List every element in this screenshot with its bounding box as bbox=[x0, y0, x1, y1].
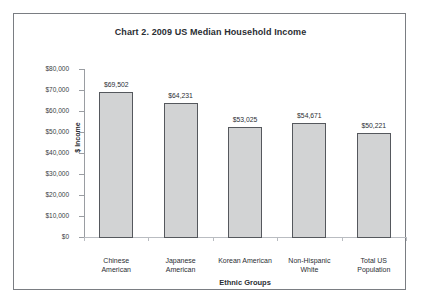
y-tick-label: $80,000 bbox=[9, 66, 69, 73]
bar-category[interactable]: $64,231JapaneseAmerican bbox=[148, 69, 212, 238]
plot-area: $ Income Ethnic Groups $80,000$70,000$60… bbox=[71, 56, 407, 238]
bar-category[interactable]: $54,671Non-HispanicWhite bbox=[277, 69, 341, 238]
bar-value-label: $69,502 bbox=[104, 81, 129, 88]
y-tick-label: $30,000 bbox=[9, 171, 69, 178]
chart-frame: Chart 2. 2009 US Median Household Income… bbox=[13, 13, 406, 290]
bar-value-label: $50,221 bbox=[361, 122, 386, 129]
y-tick-label: $60,000 bbox=[9, 108, 69, 115]
bar[interactable] bbox=[164, 103, 198, 238]
x-axis-separator bbox=[406, 237, 407, 241]
bar-category[interactable]: $69,502ChineseAmerican bbox=[84, 69, 148, 238]
y-axis-title: $ Income bbox=[74, 103, 81, 173]
bar-category[interactable]: $50,221Total USPopulation bbox=[342, 69, 406, 238]
bar-value-label: $53,025 bbox=[233, 116, 258, 123]
bar-value-label: $54,671 bbox=[297, 112, 322, 119]
bar[interactable] bbox=[357, 133, 391, 238]
bar[interactable] bbox=[292, 123, 326, 238]
bar[interactable] bbox=[99, 92, 133, 238]
y-tick-label: $70,000 bbox=[9, 87, 69, 94]
x-axis-title: Ethnic Groups bbox=[84, 278, 406, 287]
y-tick-label: $10,000 bbox=[9, 213, 69, 220]
y-tick-label: $50,000 bbox=[9, 129, 69, 136]
bar[interactable] bbox=[228, 127, 262, 238]
y-tick-label: $40,000 bbox=[9, 150, 69, 157]
y-tick-label: $20,000 bbox=[9, 192, 69, 199]
bar-category[interactable]: $53,025Korean American bbox=[213, 69, 277, 238]
y-tick-label: $0 bbox=[9, 234, 69, 241]
x-category-label: Total USPopulation bbox=[335, 257, 413, 274]
chart-title: Chart 2. 2009 US Median Household Income bbox=[14, 27, 407, 37]
bar-value-label: $64,231 bbox=[168, 92, 193, 99]
